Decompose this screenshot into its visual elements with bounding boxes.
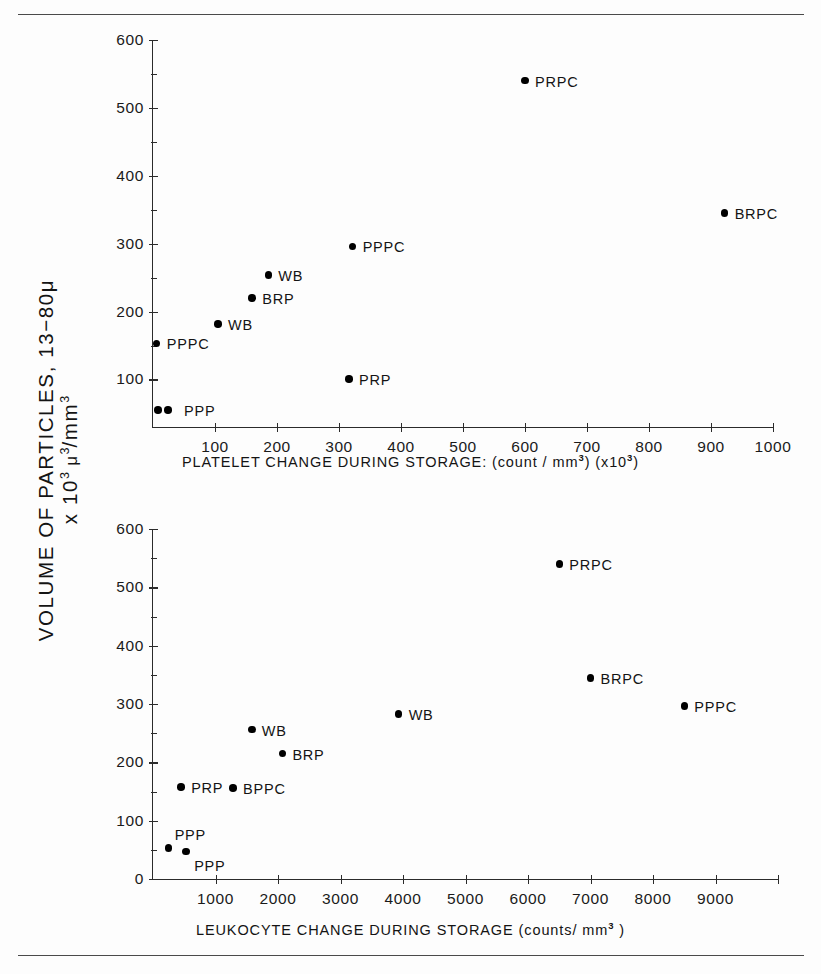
x-tick-major xyxy=(649,423,650,432)
y-tick-major xyxy=(149,40,158,41)
x-tick-label: 1000 xyxy=(755,438,792,456)
leukocyte-x-axis-title: LEUKOCYTE CHANGE DURING STORAGE (counts/… xyxy=(196,920,625,938)
data-point xyxy=(229,784,237,792)
x-tick-label: 2000 xyxy=(260,890,297,908)
data-point xyxy=(279,750,287,758)
data-point-label: PPPC xyxy=(363,239,406,255)
data-point-label: BRP xyxy=(292,747,324,763)
y-tick-major xyxy=(149,379,158,380)
y-tick-major xyxy=(149,762,158,763)
data-point-label: PPPC xyxy=(694,699,737,715)
y-tick-label: 500 xyxy=(116,99,144,117)
data-point-label: PPPC xyxy=(167,336,210,352)
data-point-label: WB xyxy=(228,317,253,333)
y-tick-major xyxy=(149,646,158,647)
data-point xyxy=(721,209,729,217)
x-tick-major xyxy=(216,875,217,884)
x-tick-major xyxy=(278,875,279,884)
x-tick-major xyxy=(466,875,467,884)
leukocyte-chart-panel: 0100200300400500600100020003000400050006… xyxy=(0,487,821,974)
data-point-label: PRP xyxy=(359,372,391,388)
x-tick-major xyxy=(277,423,278,432)
y-tick-major xyxy=(149,704,158,705)
x-tick-label: 800 xyxy=(635,438,663,456)
leukocyte-x-axis-title-main: LEUKOCYTE CHANGE DURING STORAGE (counts/… xyxy=(196,922,608,938)
y-tick-major xyxy=(149,879,158,880)
data-point xyxy=(248,294,256,302)
platelet-plot-area: 1002003004005006001002003004005006007008… xyxy=(152,40,773,428)
platelet-x-axis-title-end: ) xyxy=(633,454,639,470)
x-tick-major xyxy=(339,423,340,432)
x-tick-major xyxy=(711,423,712,432)
y-tick-label: 200 xyxy=(116,303,144,321)
y-tick-minor xyxy=(151,142,157,143)
data-point xyxy=(153,340,161,348)
data-point xyxy=(681,702,689,710)
x-tick-label: 5000 xyxy=(447,890,484,908)
data-point xyxy=(248,726,256,734)
y-tick-major xyxy=(149,244,158,245)
y-tick-label: 0 xyxy=(135,870,144,888)
data-point-label: PRP xyxy=(191,780,223,796)
data-point-label: WB xyxy=(278,268,303,284)
data-point-label: BRPC xyxy=(601,671,645,687)
data-point-label: BRP xyxy=(262,291,294,307)
data-point-label: PPP xyxy=(184,403,215,419)
y-tick-major xyxy=(149,529,158,530)
y-tick-label: 600 xyxy=(116,31,144,49)
x-tick-label: 900 xyxy=(697,438,725,456)
data-point-label: PPP xyxy=(175,827,206,843)
x-tick-label: 6000 xyxy=(510,890,547,908)
y-tick-minor xyxy=(151,558,157,559)
data-point xyxy=(164,406,172,414)
y-tick-major xyxy=(149,312,158,313)
y-tick-label: 200 xyxy=(116,753,144,771)
y-tick-major xyxy=(149,176,158,177)
data-point xyxy=(265,271,273,279)
y-tick-minor xyxy=(151,74,157,75)
x-tick-label: 3000 xyxy=(322,890,359,908)
data-point xyxy=(165,844,173,852)
y-tick-label: 400 xyxy=(116,637,144,655)
y-tick-minor xyxy=(151,792,157,793)
x-tick-label: 7000 xyxy=(572,890,609,908)
y-tick-minor xyxy=(151,617,157,618)
y-tick-label: 600 xyxy=(116,520,144,538)
data-point xyxy=(395,710,403,718)
x-tick-major xyxy=(215,423,216,432)
data-point-label: BPPC xyxy=(243,781,286,797)
data-point xyxy=(345,375,353,383)
x-tick-label: 9000 xyxy=(697,890,734,908)
x-tick-major xyxy=(773,423,774,432)
data-point xyxy=(349,243,357,251)
data-point-label: PRPC xyxy=(569,557,613,573)
data-point xyxy=(182,848,190,856)
x-tick-major xyxy=(403,875,404,884)
y-tick-major xyxy=(149,108,158,109)
platelet-chart-panel: 1002003004005006001002003004005006007008… xyxy=(0,0,821,487)
y-tick-label: 500 xyxy=(116,578,144,596)
data-point xyxy=(154,406,162,414)
x-tick-major xyxy=(401,423,402,432)
data-point-label: WB xyxy=(262,723,287,739)
y-tick-major xyxy=(149,821,158,822)
y-tick-minor xyxy=(151,210,157,211)
x-tick-label: 4000 xyxy=(385,890,422,908)
y-tick-minor xyxy=(151,278,157,279)
x-tick-major xyxy=(528,875,529,884)
data-point xyxy=(521,77,529,85)
y-tick-label: 100 xyxy=(116,370,144,388)
y-tick-major xyxy=(149,587,158,588)
data-point xyxy=(177,783,185,791)
x-tick-major xyxy=(778,875,779,884)
platelet-x-axis-title-mid: ) (x10 xyxy=(585,454,627,470)
leukocyte-plot-area: 0100200300400500600100020003000400050006… xyxy=(152,529,778,880)
data-point-label: BRPC xyxy=(735,206,779,222)
data-point-label: PRPC xyxy=(535,74,579,90)
y-tick-label: 300 xyxy=(116,235,144,253)
data-point xyxy=(214,320,222,328)
platelet-x-axis-title: PLATELET CHANGE DURING STORAGE: (count /… xyxy=(182,452,639,470)
x-tick-label: 8000 xyxy=(635,890,672,908)
x-tick-major xyxy=(653,875,654,884)
x-tick-label: 1000 xyxy=(197,890,234,908)
